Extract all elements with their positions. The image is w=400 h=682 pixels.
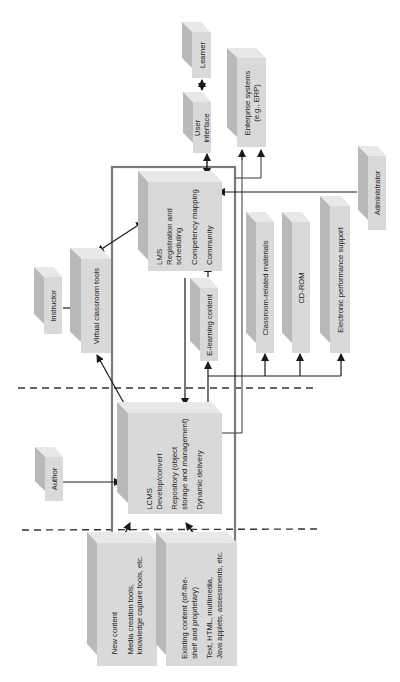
cdrom-label: CD-ROM — [297, 272, 306, 303]
lcms-storage: storage and management) — [180, 418, 189, 509]
author-box: Author — [35, 447, 63, 501]
existing-content-box: Existing content (off-the- shelf and pro… — [156, 532, 237, 666]
classroom-materials-box: Classroom-related materials — [246, 212, 274, 353]
lms-scheduling: scheduling — [174, 227, 183, 264]
lms-registration: Registration and — [165, 208, 174, 265]
administrator-box: Administrator — [358, 146, 386, 230]
cdrom-box: CD-ROM — [282, 212, 310, 353]
lcms-repository: Repository (object — [170, 446, 179, 509]
lms-box: LMS Registration and scheduling Competen… — [138, 171, 222, 271]
virtual-classroom-box: Virtual classroom tools — [70, 248, 111, 353]
existing-content-title: Existing content (off-the- — [180, 576, 189, 658]
lms-lcms-architecture-diagram: Learner User interface Enterprise system… — [0, 0, 400, 682]
new-content-line3: knowledge capture tools, etc. — [135, 555, 144, 653]
enterprise-label-2: (e.g., ERP) — [252, 84, 261, 122]
enterprise-label-1: Enterprise systems — [243, 70, 252, 135]
instructor-box: Instructor — [34, 267, 62, 334]
existing-content-line4: Java applets, assessments, etc. — [214, 551, 223, 659]
user-interface-label-2: interface — [202, 113, 211, 142]
lms-community: Community — [205, 225, 214, 264]
lcms-title: LCMS — [145, 488, 154, 510]
user-interface-label-1: User — [193, 119, 202, 135]
lcms-box: LCMS Develop/convert Repository (object … — [117, 402, 222, 514]
elearning-box: E-learning content — [190, 278, 218, 361]
lms-competency: Competency mapping — [190, 189, 199, 265]
enterprise-systems-box: Enterprise systems (e.g., ERP) — [227, 48, 266, 147]
author-label: Author — [50, 468, 59, 490]
instructor-label: Instructor — [49, 290, 58, 322]
lms-title: LMS — [155, 248, 164, 264]
new-content-title: New content — [110, 611, 119, 653]
user-interface-box: User interface — [183, 92, 211, 153]
eps-label: Electronic performance support — [336, 227, 345, 333]
lcms-delivery: Dynamic delivery — [195, 450, 204, 509]
administrator-label: Administrator — [373, 171, 382, 216]
lcms-develop: Develop/convert — [155, 453, 164, 509]
learner-box: Learner — [182, 22, 211, 78]
classroom-materials-label: Classroom-related materials — [261, 240, 270, 335]
learner-label: Learner — [197, 42, 206, 68]
virtual-classroom-label: Virtual classroom tools — [92, 268, 101, 344]
new-content-box: New content Media creation tools, knowle… — [87, 532, 157, 666]
existing-content-line2: shelf and proprietary) — [189, 587, 198, 659]
dashed-separator-bottom — [22, 529, 318, 530]
new-content-line2: Media creation tools, — [125, 584, 134, 654]
existing-content-line3: Text, HTML, multimedia, — [205, 576, 214, 658]
eps-box: Electronic performance support — [320, 196, 350, 353]
elearning-label: E-learning content — [205, 294, 214, 356]
